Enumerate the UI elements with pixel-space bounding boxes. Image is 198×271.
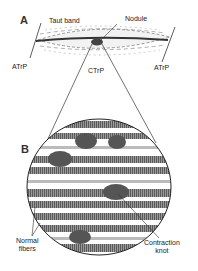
normal-fibers-label: Normal fibers <box>16 237 39 253</box>
taut-band-label: Taut band <box>49 17 80 25</box>
ctrp-label: CTrP <box>88 67 104 75</box>
contraction-knot <box>75 133 97 149</box>
taut-band-illustration <box>30 23 175 62</box>
atrp-left-label: ATrP <box>12 63 27 71</box>
nodule-label: Nodule <box>125 15 147 23</box>
normal-fibers-line1: Normal <box>16 237 39 245</box>
contraction-knot <box>69 230 91 244</box>
diagram-canvas <box>0 0 198 271</box>
panel-b-letter: B <box>21 145 29 153</box>
panel-a-letter: A <box>20 16 28 24</box>
contraction-knot <box>108 135 126 149</box>
normal-fibers-line2: fibers <box>16 245 39 253</box>
contraction-knot-line1: Contraction <box>144 239 180 247</box>
contraction-knot <box>103 184 129 200</box>
contraction-knot-line2: knot <box>144 247 180 255</box>
atrp-right-label: ATrP <box>154 64 169 72</box>
contraction-knot-label: Contraction knot <box>144 239 180 255</box>
contraction-knot <box>48 151 72 167</box>
